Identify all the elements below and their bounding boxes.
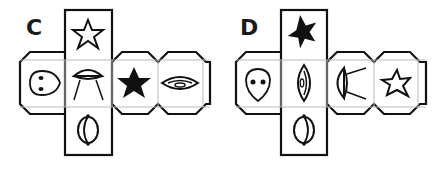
alien-head-icon <box>30 71 60 95</box>
ufo-icon <box>74 70 103 100</box>
cube-net-c <box>0 0 222 170</box>
eye-lens-vertical-icon <box>298 65 310 101</box>
ufo-sideways-icon <box>338 68 367 99</box>
cube-net-d <box>222 0 445 170</box>
planet-icon <box>294 114 314 146</box>
alien-head-icon <box>246 69 270 101</box>
planet-icon <box>78 114 98 146</box>
eye-lens-icon <box>162 77 198 89</box>
star-outline-icon <box>73 20 103 48</box>
star-filled-icon <box>288 15 317 48</box>
star-outline-icon <box>382 70 410 96</box>
star-filled-icon <box>117 67 151 98</box>
